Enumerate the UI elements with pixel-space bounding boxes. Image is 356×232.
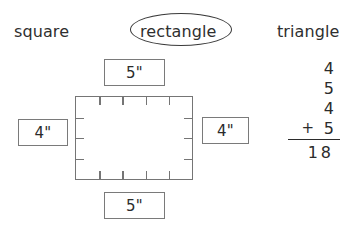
square-figure [75, 96, 193, 180]
shape-option-triangle[interactable]: triangle [277, 24, 340, 40]
addend-row-3: 4 [286, 98, 342, 118]
measurement-box-left[interactable]: 4" [18, 119, 68, 146]
plus-sign-icon: + [301, 119, 314, 137]
unit-tick-bottom-1 [99, 171, 100, 179]
addend-2: 5 [323, 79, 334, 98]
unit-tick-bottom-2 [122, 171, 123, 179]
unit-tick-bottom-3 [146, 171, 147, 179]
sum-row: 18 [286, 142, 342, 162]
worksheet-canvas: square rectangle triangle 5" 5" 4" 4" 4 … [0, 0, 356, 232]
unit-tick-top-1 [99, 97, 100, 105]
unit-tick-right-1 [184, 118, 192, 119]
unit-tick-left-1 [76, 118, 84, 119]
sum-digit-tens: 1 [308, 143, 321, 162]
addend-row-4: + 5 [286, 118, 342, 138]
selection-ellipse-icon [130, 13, 232, 46]
measurement-box-right[interactable]: 4" [202, 117, 249, 144]
sum-digit-ones: 8 [321, 143, 334, 162]
unit-tick-left-3 [76, 159, 84, 160]
unit-tick-right-3 [184, 159, 192, 160]
addend-4: 5 [323, 119, 334, 138]
measurement-box-top[interactable]: 5" [104, 59, 165, 86]
addend-1: 4 [323, 59, 334, 78]
unit-tick-top-3 [146, 97, 147, 105]
addition-column: 4 5 4 + 5 18 [286, 58, 342, 162]
unit-tick-top-2 [122, 97, 123, 105]
shape-option-square[interactable]: square [14, 24, 69, 40]
sum-rule-divider [288, 139, 340, 140]
unit-tick-bottom-4 [169, 171, 170, 179]
unit-tick-right-2 [184, 138, 192, 139]
measurement-box-bottom[interactable]: 5" [104, 192, 165, 219]
addend-row-2: 5 [286, 78, 342, 98]
unit-tick-left-2 [76, 138, 84, 139]
addend-row-1: 4 [286, 58, 342, 78]
unit-tick-top-4 [169, 97, 170, 105]
addend-3: 4 [323, 99, 334, 118]
